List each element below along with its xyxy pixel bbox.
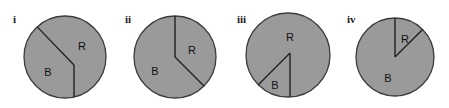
- pie-chart-figure: i ii iii iv RBRBRBRB: [0, 0, 449, 108]
- pie-chart-ii: RB: [134, 16, 216, 98]
- pie-slice-label-i-B: B: [44, 66, 51, 78]
- pie-slice-label-iii-R: R: [286, 31, 294, 43]
- pie-chart-iv: RB: [356, 18, 434, 96]
- pie-circle-i: [24, 16, 106, 98]
- pie-slice-label-i-R: R: [78, 40, 86, 52]
- pie-slice-label-iii-B: B: [271, 79, 278, 91]
- pie-chart-canvas: RBRBRBRB: [0, 0, 449, 108]
- pie-chart-iii: RB: [246, 13, 330, 97]
- pie-chart-i: RB: [24, 16, 106, 98]
- pie-slice-label-ii-B: B: [151, 65, 158, 77]
- pie-slice-label-ii-R: R: [188, 44, 196, 56]
- pie-slice-label-iv-B: B: [384, 72, 391, 84]
- pie-slice-label-iv-R: R: [401, 33, 409, 45]
